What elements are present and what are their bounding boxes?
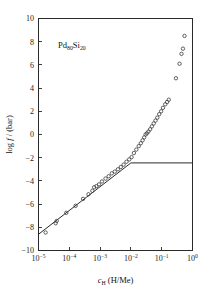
data-point — [91, 189, 94, 192]
data-point — [113, 170, 116, 173]
x-tick-label-−2: 10−2 — [124, 253, 138, 263]
y-tick-label-−2: −2 — [25, 154, 34, 163]
chart-canvas: 10−510−410−310−210−1100 1086420−2−4−6−8−… — [0, 0, 208, 296]
y-tick-label-0: 0 — [30, 130, 34, 139]
data-point — [132, 151, 135, 154]
y-tick-label-−8: −8 — [25, 223, 34, 232]
y-tick-label-−10: −10 — [21, 246, 34, 255]
data-point — [135, 148, 138, 151]
y-tick-labels: 1086420−2−4−6−8−10 — [21, 14, 34, 255]
data-point — [159, 110, 162, 113]
data-point — [100, 180, 103, 183]
data-point — [107, 175, 110, 178]
y-tick-label-6: 6 — [30, 61, 34, 70]
data-point — [44, 231, 47, 234]
figure-container: 10−510−410−310−210−1100 1086420−2−4−6−8−… — [0, 0, 208, 296]
data-points — [44, 34, 186, 234]
data-point — [104, 177, 107, 180]
data-point — [180, 52, 183, 55]
x-tick-labels: 10−510−410−310−210−1100 — [32, 253, 199, 263]
data-point — [161, 106, 164, 109]
data-point — [97, 183, 100, 186]
y-tick-label-−6: −6 — [25, 200, 34, 209]
model-lines — [39, 163, 193, 234]
x-axis-title: cH (H/Me) — [98, 275, 134, 286]
y-axis-title: log f / (bar) — [4, 115, 14, 154]
data-point — [183, 34, 186, 37]
x-tick-label-−3: 10−3 — [93, 253, 107, 263]
y-tick-label-4: 4 — [30, 84, 34, 93]
y-tick-label-−4: −4 — [25, 177, 34, 186]
data-point — [130, 155, 133, 158]
sample-composition-label: Pd80Si20 — [58, 40, 86, 51]
x-tick-label-0: 100 — [187, 253, 198, 263]
y-tick-label-2: 2 — [30, 107, 34, 116]
data-point — [174, 77, 177, 80]
x-tick-label-−1: 10−1 — [155, 253, 169, 263]
data-point — [156, 116, 159, 119]
axes-frame — [39, 19, 193, 251]
y-tick-label-10: 10 — [26, 14, 34, 23]
data-point — [122, 163, 125, 166]
data-point — [178, 62, 181, 65]
plot-frame — [39, 19, 193, 251]
x-tick-label-−4: 10−4 — [62, 253, 76, 263]
data-point — [181, 47, 184, 50]
y-tick-label-8: 8 — [30, 38, 34, 47]
